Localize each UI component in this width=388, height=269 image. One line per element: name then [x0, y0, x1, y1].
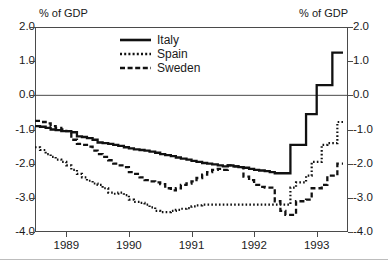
right-axis-unit-label: % of GDP [299, 8, 348, 19]
y-axis-tick-mark-right [348, 164, 353, 165]
y-axis-tick-label-right: -4.0 [353, 226, 388, 238]
legend-swatch-dashed-icon [119, 63, 152, 73]
footer-caption [2, 261, 386, 269]
series-paths [35, 53, 343, 215]
left-axis-unit-label: % of GDP [39, 8, 88, 19]
legend-swatch-dotted-icon [119, 49, 152, 59]
x-axis-tick-mark [192, 232, 193, 237]
legend-item-spain: Spain [119, 47, 229, 60]
legend-label: Sweden [157, 62, 200, 74]
x-axis-tick-label: 1993 [287, 240, 347, 252]
y-axis-tick-label-right: -2.0 [353, 158, 388, 170]
legend-swatch-solid-icon [119, 35, 152, 45]
legend-item-italy: Italy [119, 33, 229, 46]
y-axis-tick-label-right: -1.0 [353, 124, 388, 136]
y-axis-tick-mark-right [348, 198, 353, 199]
y-axis-tick-mark-left [30, 95, 35, 96]
series-line-sweden [35, 121, 343, 215]
y-axis-tick-label-right: 2.0 [353, 21, 388, 33]
x-axis-tick-mark [254, 232, 255, 237]
x-axis-tick-label: 1991 [162, 240, 222, 252]
x-axis-tick-mark [317, 232, 318, 237]
y-axis-tick-mark-right [348, 95, 353, 96]
y-axis-tick-label-right: 0.0 [353, 89, 388, 101]
x-axis-tick-label: 1989 [36, 240, 96, 252]
y-axis-tick-mark-left [30, 61, 35, 62]
footer-divider [0, 259, 388, 260]
x-axis-tick-mark [66, 232, 67, 237]
legend-label: Spain [157, 48, 188, 60]
y-axis-tick-mark-left [30, 130, 35, 131]
y-axis-tick-mark-right [348, 130, 353, 131]
legend-label: Italy [157, 34, 179, 46]
chart-legend: ItalySpainSweden [119, 33, 229, 75]
x-axis-tick-label: 1992 [224, 240, 284, 252]
y-axis-tick-mark-left [30, 164, 35, 165]
y-axis-tick-mark-right [348, 61, 353, 62]
y-axis-tick-label-right: -3.0 [353, 192, 388, 204]
legend-item-sweden: Sweden [119, 61, 229, 74]
x-axis-tick-label: 1990 [99, 240, 159, 252]
x-axis-tick-mark [129, 232, 130, 237]
y-axis-tick-mark-right [348, 27, 353, 28]
y-axis-tick-label-right: 1.0 [353, 55, 388, 67]
chart-container: % of GDP % of GDP 2.01.00.0-1.0-2.0-3.0-… [0, 0, 388, 269]
y-axis-tick-mark-right [348, 232, 353, 233]
y-axis-tick-mark-left [30, 232, 35, 233]
y-axis-tick-mark-left [30, 198, 35, 199]
y-axis-tick-mark-left [30, 27, 35, 28]
